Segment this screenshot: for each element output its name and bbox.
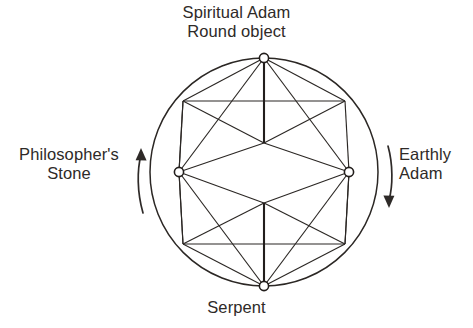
diagram-canvas: Spiritual Adam Round object Serpent Phil… [0,0,473,328]
label-serpent: Serpent [0,298,473,317]
descent-arrow [383,146,394,208]
node-marker-bottom[interactable] [259,281,268,290]
node-marker-top[interactable] [259,53,268,62]
node-marker-left[interactable] [174,167,183,176]
node-marker-right[interactable] [344,167,353,176]
label-spiritual-adam: Spiritual Adam Round object [0,3,473,41]
upper-inner-web [179,101,345,172]
central-rhombus [179,143,349,203]
label-earthly-adam: Earthly Adam [399,145,473,183]
label-philosophers-stone: Philosopher's Stone [0,145,138,183]
